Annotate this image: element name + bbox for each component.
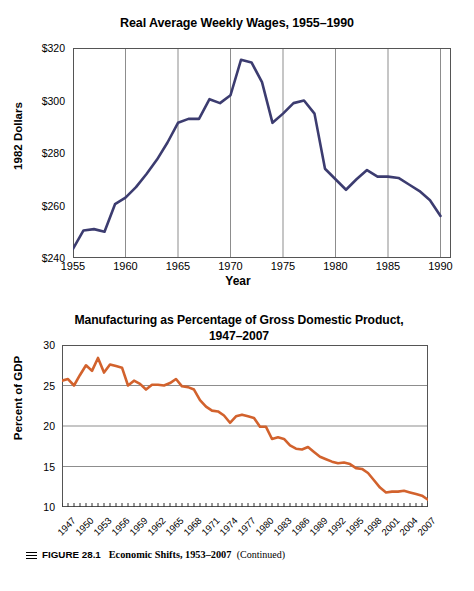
chart2-gridlines [62, 386, 428, 467]
chart2-title-line2: 1947–2007 [209, 329, 269, 343]
chart1-x-tick: 1990 [411, 260, 471, 272]
chart2-title: Manufacturing as Percentage of Gross Dom… [24, 312, 454, 344]
chart2-svg [62, 345, 428, 507]
chart2-title-line1: Manufacturing as Percentage of Gross Dom… [74, 313, 403, 327]
chart1-x-tick: 1970 [201, 260, 261, 272]
figure-economic-shifts: Real Average Weekly Wages, 1955–1990 198… [0, 0, 474, 591]
chart1-x-axis-label: Year [73, 274, 403, 288]
chart1-y-tick: $260 [5, 200, 65, 212]
chart-real-average-weekly-wages: Real Average Weekly Wages, 1955–1990 198… [0, 0, 474, 296]
chart2-y-tick: 30 [15, 339, 55, 351]
chart1-plot-area: $240$260$280$300$320 1955196019651970197… [73, 48, 451, 258]
chart2-y-tick: 20 [15, 420, 55, 432]
chart2-y-tick: 15 [15, 461, 55, 473]
figure-caption: FIGURE 28.1 Economic Shifts, 1953–2007 (… [26, 549, 446, 561]
figure-caption-title: Economic Shifts, 1953–2007 [109, 549, 232, 560]
chart1-x-tick: 1965 [148, 260, 208, 272]
chart1-x-tick: 1980 [306, 260, 366, 272]
chart2-y-tick: 10 [15, 501, 55, 513]
chart2-plot-area: 1015202530 19471950195319561959196219651… [62, 345, 428, 507]
chart2-y-tick: 25 [15, 380, 55, 392]
chart1-y-tick: $320 [5, 42, 65, 54]
chart1-x-tick: 1975 [253, 260, 313, 272]
chart1-x-tick: 1955 [43, 260, 103, 272]
chart2-data-line [62, 358, 428, 500]
chart1-svg [73, 48, 451, 258]
chart1-x-tick: 1960 [96, 260, 156, 272]
chart1-x-tick: 1985 [358, 260, 418, 272]
chart1-data-line [73, 60, 441, 249]
chart1-gridlines [73, 48, 441, 258]
chart1-y-tick: $280 [5, 147, 65, 159]
figure-number: FIGURE 28.1 [42, 549, 101, 560]
chart1-y-tick: $300 [5, 95, 65, 107]
chart-manufacturing-percentage-gdp: Manufacturing as Percentage of Gross Dom… [0, 300, 474, 591]
hamburger-icon [26, 550, 37, 561]
chart1-title: Real Average Weekly Wages, 1955–1990 [0, 16, 474, 30]
chart1-y-axis-label: 1982 Dollars [12, 56, 24, 216]
figure-caption-continued: (Continued) [237, 549, 285, 560]
